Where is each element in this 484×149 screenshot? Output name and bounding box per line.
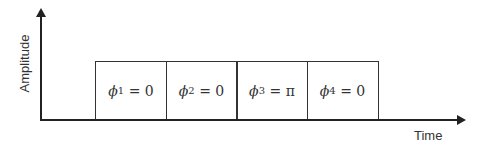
phase-segment-4: ϕ4 = 0 <box>307 61 379 119</box>
phase-segment-2: ϕ2 = 0 <box>166 61 238 119</box>
phase-value: = 0 <box>336 83 366 99</box>
y-axis-label: Amplitude <box>17 34 32 94</box>
phase-segment-3: ϕ3 = π <box>236 61 308 119</box>
phase-segments: ϕ1 = 0 ϕ2 = 0 ϕ3 = π ϕ4 = 0 <box>95 61 379 120</box>
phi-symbol: ϕ <box>320 83 330 99</box>
phi-symbol: ϕ <box>249 83 259 99</box>
phase-segment-1: ϕ1 = 0 <box>95 61 167 119</box>
phase-value: = 0 <box>124 83 154 99</box>
phi-symbol: ϕ <box>179 83 189 99</box>
x-axis-label: Time <box>414 128 442 143</box>
phi-symbol: ϕ <box>108 83 118 99</box>
phase-value: = 0 <box>195 83 225 99</box>
y-axis <box>40 14 42 121</box>
x-axis-arrowhead <box>457 115 466 125</box>
phase-value: = π <box>265 83 295 99</box>
